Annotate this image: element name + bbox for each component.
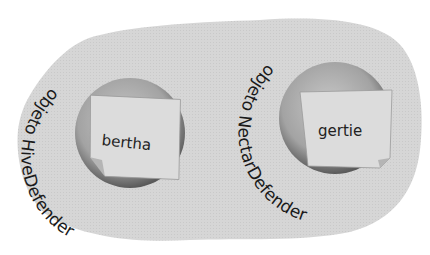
object-hivedefender[interactable]: bertha [75,78,185,188]
reference-name-gertie: gertie [318,122,362,140]
heap-diagram: bertha objeto HiveDefender gertie objeto… [0,0,430,255]
